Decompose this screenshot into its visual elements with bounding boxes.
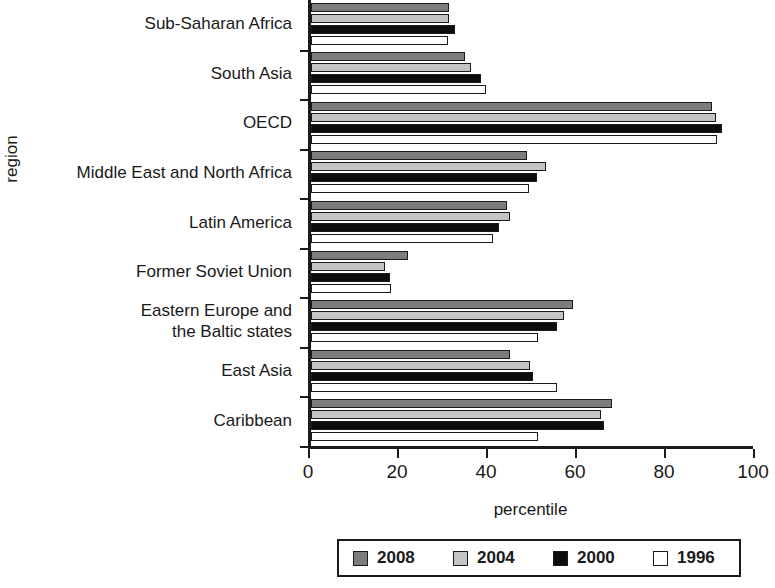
x-axis-tick <box>308 449 310 458</box>
bar-group <box>311 52 756 94</box>
bar-2004 <box>311 410 601 419</box>
bar-2008 <box>311 350 510 359</box>
bar-2008 <box>311 251 408 260</box>
bar-2004 <box>311 262 385 271</box>
bar-group <box>311 3 756 45</box>
bar-group <box>311 399 756 441</box>
y-axis-category-label: Caribbean <box>214 410 292 431</box>
bar-2008 <box>311 3 449 12</box>
legend-entry-1996: 1996 <box>639 548 739 568</box>
y-axis-category-label: Former Soviet Union <box>136 261 292 282</box>
x-axis-tick <box>753 449 755 458</box>
y-axis-category-label: East Asia <box>221 360 292 381</box>
bar-2004 <box>311 162 546 171</box>
bar-2000 <box>311 372 533 381</box>
bar-group <box>311 350 756 392</box>
x-axis-tick <box>486 449 488 458</box>
x-axis-tick <box>397 449 399 458</box>
bar-1996 <box>311 85 486 94</box>
bar-2004 <box>311 311 564 320</box>
bar-2008 <box>311 399 612 408</box>
bar-1996 <box>311 432 538 441</box>
y-axis-category-label: Sub-Saharan Africa <box>145 13 292 34</box>
legend-label: 2004 <box>477 548 515 568</box>
bar-2000 <box>311 124 722 133</box>
bar-2008 <box>311 102 712 111</box>
legend-entry-2004: 2004 <box>439 548 539 568</box>
y-axis-tick <box>300 149 309 151</box>
y-axis-category-label: Latin America <box>189 212 292 233</box>
y-axis-category-labels: Sub-Saharan AfricaSouth AsiaOECDMiddle E… <box>0 0 300 446</box>
x-axis-tick-label: 0 <box>303 461 314 483</box>
bar-group <box>311 201 756 243</box>
bar-2004 <box>311 212 510 221</box>
bar-2008 <box>311 52 465 61</box>
x-axis: 020406080100 <box>308 446 753 449</box>
bar-1996 <box>311 284 391 293</box>
y-axis-tick <box>300 198 309 200</box>
bar-1996 <box>311 234 493 243</box>
x-axis-tick-label: 40 <box>475 461 496 483</box>
bar-2000 <box>311 74 481 83</box>
x-axis-tick-label: 60 <box>564 461 585 483</box>
bar-2000 <box>311 322 557 331</box>
y-axis-tick <box>300 99 309 101</box>
bar-group <box>311 300 756 342</box>
bar-group <box>311 151 756 193</box>
bar-2000 <box>311 173 537 182</box>
legend-label: 1996 <box>677 548 715 568</box>
bar-1996 <box>311 333 538 342</box>
legend-entry-2000: 2000 <box>539 548 639 568</box>
y-axis-category-label: Middle East and North Africa <box>77 162 292 183</box>
bar-2008 <box>311 300 573 309</box>
legend-label: 2008 <box>377 548 415 568</box>
bar-chart-figure: region Sub-Saharan AfricaSouth AsiaOECDM… <box>0 0 775 588</box>
x-axis-tick-label: 80 <box>653 461 674 483</box>
legend-swatch-icon <box>653 551 668 566</box>
bar-1996 <box>311 184 529 193</box>
bar-2000 <box>311 273 390 282</box>
x-axis-tick <box>575 449 577 458</box>
bar-group <box>311 102 756 144</box>
bar-2008 <box>311 201 507 210</box>
y-axis-category-label: OECD <box>243 112 292 133</box>
bar-1996 <box>311 383 557 392</box>
bar-2008 <box>311 151 527 160</box>
bar-2004 <box>311 361 530 370</box>
bar-1996 <box>311 135 717 144</box>
y-axis-tick <box>300 50 309 52</box>
legend-entry-2008: 2008 <box>339 548 439 568</box>
x-axis-tick <box>664 449 666 458</box>
y-axis-tick <box>300 297 309 299</box>
legend-swatch-icon <box>553 551 568 566</box>
y-axis-tick <box>300 347 309 349</box>
legend-label: 2000 <box>577 548 615 568</box>
y-axis-tick <box>300 248 309 250</box>
bar-group <box>311 251 756 293</box>
bar-2004 <box>311 63 471 72</box>
legend-swatch-icon <box>453 551 468 566</box>
bar-2004 <box>311 113 716 122</box>
bar-2004 <box>311 14 449 23</box>
plot-area <box>308 0 756 446</box>
bar-2000 <box>311 25 455 34</box>
y-axis-category-label: South Asia <box>211 63 292 84</box>
legend-swatch-icon <box>353 551 368 566</box>
x-axis-tick-label: 20 <box>386 461 407 483</box>
y-axis-category-label: Eastern Europe and the Baltic states <box>141 300 292 342</box>
x-axis-title: percentile <box>308 500 753 520</box>
bar-2000 <box>311 421 604 430</box>
x-axis-tick-label: 100 <box>737 461 769 483</box>
y-axis-tick <box>300 396 309 398</box>
bar-2000 <box>311 223 499 232</box>
chart-legend: 2008200420001996 <box>337 539 741 577</box>
bar-1996 <box>311 36 448 45</box>
